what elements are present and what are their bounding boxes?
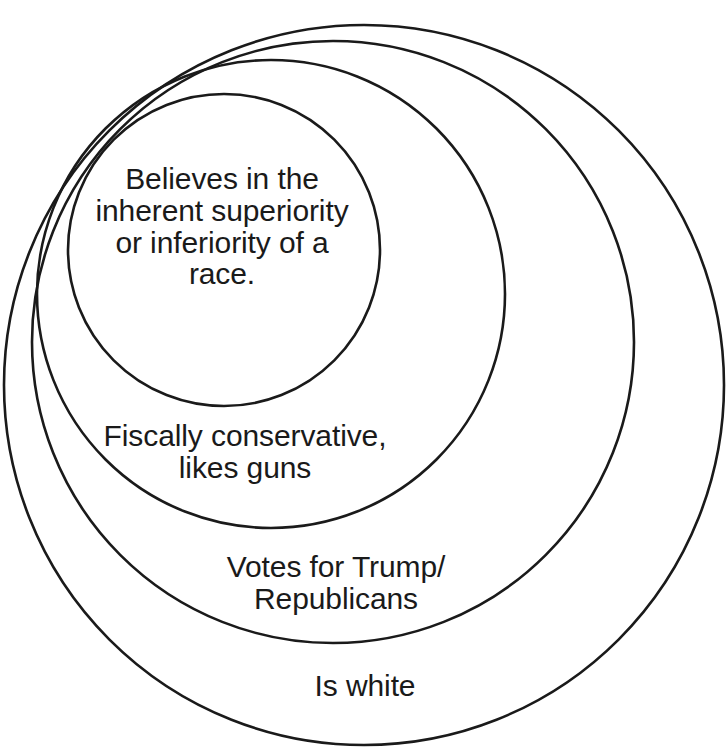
ring-label-second: Fiscally conservative, likes guns xyxy=(80,420,410,484)
ring-label-third: Votes for Trump/ Republicans xyxy=(176,551,496,615)
diagram-background xyxy=(0,0,728,748)
circles-graphic xyxy=(0,0,728,748)
nested-circles-diagram: Believes in the inherent superiority or … xyxy=(0,0,728,748)
ring-label-innermost: Believes in the inherent superiority or … xyxy=(72,163,372,290)
ring-label-outermost: Is white xyxy=(255,670,475,702)
